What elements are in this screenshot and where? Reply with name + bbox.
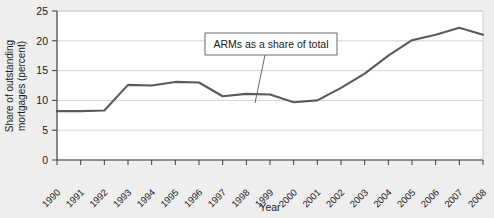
x-axis-title: Year	[259, 201, 281, 213]
y-tick-label: 0	[42, 154, 48, 166]
x-tick-label: 1998	[229, 187, 252, 210]
y-tick-label: 25	[36, 5, 48, 17]
x-tick-label: 2003	[347, 187, 370, 210]
x-tick-label: 2002	[324, 187, 347, 210]
x-tick-label: 1994	[134, 187, 157, 210]
y-axis-title-line1: Share of outstanding	[4, 40, 15, 132]
x-tick-label: 1991	[63, 187, 86, 210]
y-axis-title-line2: mortgages (percent)	[16, 41, 27, 131]
x-tick-label: 2005	[395, 187, 418, 210]
x-tick-label: 1992	[87, 187, 110, 210]
x-tick-label: 1997	[205, 187, 228, 210]
y-tick-label: 15	[36, 64, 48, 76]
x-tick-label: 1996	[182, 187, 205, 210]
chart-container: 0510152025 19901991199219931994199519961…	[0, 0, 494, 218]
y-axis-title: Share of outstanding mortgages (percent)	[4, 40, 27, 132]
x-tick-label: 2007	[442, 187, 465, 210]
annotation-label: ARMs as a share of total	[214, 38, 329, 50]
x-tick-label: 2006	[418, 187, 441, 210]
line-chart: 0510152025 19901991199219931994199519961…	[0, 0, 494, 218]
y-tick-label: 10	[36, 94, 48, 106]
y-tick-label: 20	[36, 35, 48, 47]
x-tick-label: 1993	[111, 187, 134, 210]
y-axis-ticks: 0510152025	[36, 5, 57, 166]
x-tick-label: 1995	[158, 187, 181, 210]
y-tick-label: 5	[42, 124, 48, 136]
x-tick-label: 2004	[371, 187, 394, 210]
x-tick-label: 1990	[40, 187, 63, 210]
x-tick-label: 2008	[466, 187, 489, 210]
x-tick-label: 2001	[300, 187, 323, 210]
